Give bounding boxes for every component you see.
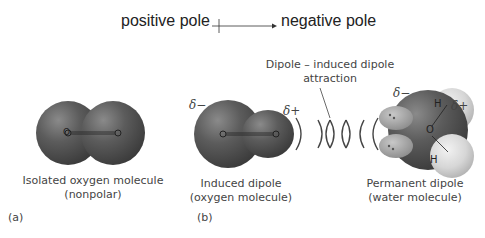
attraction-pointer-line [320, 88, 330, 118]
isolated-oxygen-molecule-icon [36, 101, 145, 165]
permanent-caption-line2: (water molecule) [360, 191, 470, 205]
permanent-caption-line1: Permanent dipole [360, 177, 470, 191]
attraction-wave-icon [296, 118, 378, 150]
atom-label-o-left: O [63, 127, 70, 137]
induced-caption-line1: Induced dipole [186, 177, 296, 191]
panel-b-label: (b) [197, 211, 213, 225]
induced-delta-minus: δ− [189, 98, 206, 112]
induced-delta-plus: δ+ [283, 104, 300, 118]
panel-a-label: (a) [8, 211, 23, 225]
induced-dipole-oxygen-molecule-icon [194, 100, 294, 168]
negative-pole-label: negative pole [281, 12, 376, 30]
positive-pole-label: positive pole [121, 12, 210, 30]
attraction-label: Dipole – induced dipole attraction [245, 58, 415, 86]
induced-dipole-caption: Induced dipole (oxygen molecule) [186, 177, 296, 205]
water-hydrogen-bottom-label: H [430, 154, 438, 165]
panel-a-caption-line2: (nonpolar) [8, 188, 178, 202]
water-oxygen-label: O [426, 124, 434, 135]
panel-a-caption: Isolated oxygen molecule (nonpolar) [8, 174, 178, 202]
permanent-dipole-caption: Permanent dipole (water molecule) [360, 177, 470, 205]
induced-caption-line2: (oxygen molecule) [186, 191, 296, 205]
water-hydrogen-top-label: H [434, 98, 442, 109]
water-delta-minus: δ− [393, 86, 410, 100]
panel-a-caption-line1: Isolated oxygen molecule [8, 174, 178, 188]
water-delta-plus: δ+ [451, 99, 468, 113]
attraction-label-line2: attraction [245, 72, 415, 86]
attraction-label-line1: Dipole – induced dipole [245, 58, 415, 72]
pole-arrow-icon [212, 19, 277, 33]
